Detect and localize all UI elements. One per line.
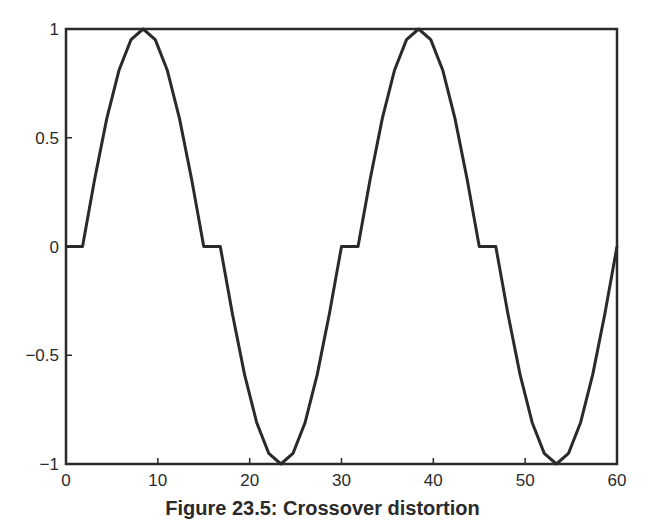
data-line	[66, 29, 617, 464]
x-tick-label: 30	[332, 471, 351, 490]
x-tick-label: 10	[148, 471, 167, 490]
x-tick-label: 0	[61, 471, 70, 490]
y-tick-label: 0.5	[35, 129, 59, 148]
y-tick-label: 0	[50, 238, 59, 257]
x-tick-label: 60	[608, 471, 627, 490]
y-tick-label: −1	[40, 455, 59, 474]
figure-caption: Figure 23.5: Crossover distortion	[0, 497, 645, 520]
x-tick-label: 40	[424, 471, 443, 490]
x-tick-label: 50	[516, 471, 535, 490]
x-tick-label: 20	[240, 471, 259, 490]
y-tick-label: −0.5	[25, 346, 59, 365]
y-tick-label: 1	[50, 20, 59, 39]
